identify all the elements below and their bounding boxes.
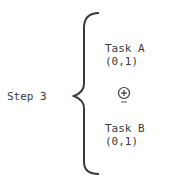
task-b-range: (0,1) xyxy=(105,135,138,148)
circled-plus-underlined-icon xyxy=(0,0,176,181)
task-b-label: Task B xyxy=(105,122,145,135)
